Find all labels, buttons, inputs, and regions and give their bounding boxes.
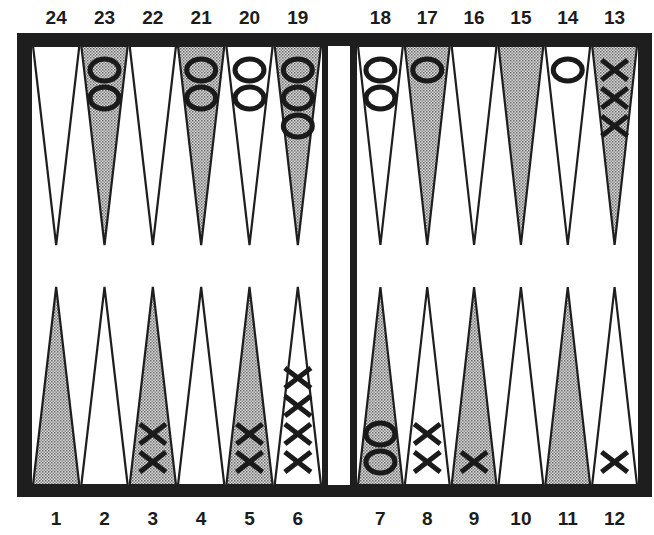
- point-label: 10: [501, 508, 541, 530]
- point-label: 16: [454, 7, 494, 29]
- right-half-surface: [357, 46, 638, 485]
- point-label: 12: [595, 508, 635, 530]
- point-label: 15: [501, 7, 541, 29]
- point-label: 23: [85, 7, 125, 29]
- point-label: 11: [548, 508, 588, 530]
- point-label: 2: [85, 508, 125, 530]
- point-label: 6: [278, 508, 318, 530]
- point-label: 8: [407, 508, 447, 530]
- point-label: 19: [278, 7, 318, 29]
- point-label: 1: [36, 508, 76, 530]
- left-half-surface: [32, 46, 322, 485]
- point-label: 9: [454, 508, 494, 530]
- point-label: 3: [133, 508, 173, 530]
- point-label: 18: [360, 7, 400, 29]
- bar[interactable]: [328, 46, 350, 485]
- point-label: 20: [230, 7, 270, 29]
- point-label: 24: [36, 7, 76, 29]
- point-label: 7: [360, 508, 400, 530]
- point-label: 5: [230, 508, 270, 530]
- point-label: 17: [407, 7, 447, 29]
- point-label: 13: [595, 7, 635, 29]
- point-label: 21: [181, 7, 221, 29]
- point-label: 4: [181, 508, 221, 530]
- point-label: 22: [133, 7, 173, 29]
- point-label: 14: [548, 7, 588, 29]
- backgammon-board: [0, 0, 654, 535]
